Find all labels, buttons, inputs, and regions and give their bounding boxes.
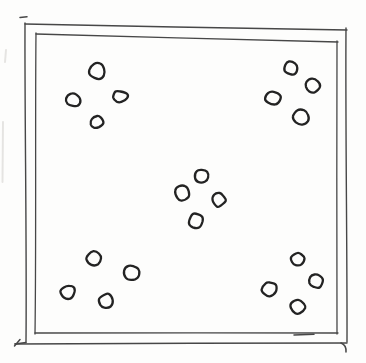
top-left-overshoot-tick <box>20 17 27 18</box>
inner-frame-left <box>35 33 36 334</box>
sketch-page <box>0 0 366 363</box>
paper-background <box>0 0 366 363</box>
hand-drawn-dice-five-sketch <box>0 0 366 363</box>
smudge-stroke <box>5 50 6 62</box>
inner-bottom-restroke <box>294 334 314 335</box>
smudge-stroke <box>3 122 4 182</box>
